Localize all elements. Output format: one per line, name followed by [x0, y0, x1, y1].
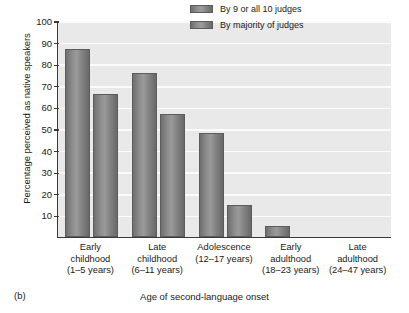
y-axis-tick-label: 30: [24, 168, 52, 178]
panel-label: (b): [14, 290, 26, 301]
y-axis-tick-mark: [54, 21, 59, 22]
y-axis-tick-label: 50: [24, 125, 52, 135]
y-axis-tick-mark: [54, 173, 59, 174]
y-axis-tick-label: 40: [24, 147, 52, 157]
x-axis-category-line: Late: [316, 242, 399, 254]
y-axis-tick-label: 70: [24, 82, 52, 92]
y-axis-tick-label: 100: [24, 17, 52, 27]
y-axis-tick-label: 90: [24, 39, 52, 49]
legend-swatch-icon: [190, 21, 213, 29]
y-axis-tick-mark: [54, 129, 59, 130]
gridline: [58, 86, 391, 88]
legend-swatch-icon: [190, 5, 213, 13]
x-axis-category-line: adulthood: [316, 254, 399, 266]
x-axis-category-line: (6–11 years): [116, 265, 199, 277]
y-axis-tick-mark: [54, 216, 59, 217]
y-axis-tick-label: 60: [24, 103, 52, 113]
bar: [132, 73, 157, 237]
y-axis-tick-label: 20: [24, 190, 52, 200]
figure: Percentage perceived as native speakers …: [0, 0, 409, 313]
gridline: [58, 43, 391, 45]
bar: [227, 205, 252, 237]
legend-item: By majority of judges: [190, 20, 304, 30]
y-axis-tick-mark: [54, 151, 59, 152]
y-axis-tick-mark: [54, 108, 59, 109]
y-axis-tick-mark: [54, 194, 59, 195]
bar: [265, 226, 290, 237]
y-axis-tick-mark: [54, 43, 59, 44]
bar: [160, 114, 185, 237]
bar: [93, 94, 118, 237]
y-axis-tick-label: 10: [24, 211, 52, 221]
bar: [65, 49, 90, 237]
gridline: [58, 64, 391, 66]
y-axis-tick-mark: [54, 86, 59, 87]
x-axis-category-label: Lateadulthood(24–47 years): [316, 242, 399, 277]
x-axis-title: Age of second-language onset: [0, 291, 409, 302]
bar: [199, 133, 224, 237]
chart-legend: By 9 or all 10 judges By majority of jud…: [190, 4, 304, 36]
legend-item: By 9 or all 10 judges: [190, 4, 304, 14]
legend-item-label: By 9 or all 10 judges: [220, 4, 302, 14]
plot-area: 100908070605040302010: [57, 22, 391, 238]
y-axis-tick-mark: [54, 65, 59, 66]
legend-item-label: By majority of judges: [220, 20, 304, 30]
x-axis-category-line: (24–47 years): [316, 265, 399, 277]
y-axis-tick-label: 80: [24, 60, 52, 70]
